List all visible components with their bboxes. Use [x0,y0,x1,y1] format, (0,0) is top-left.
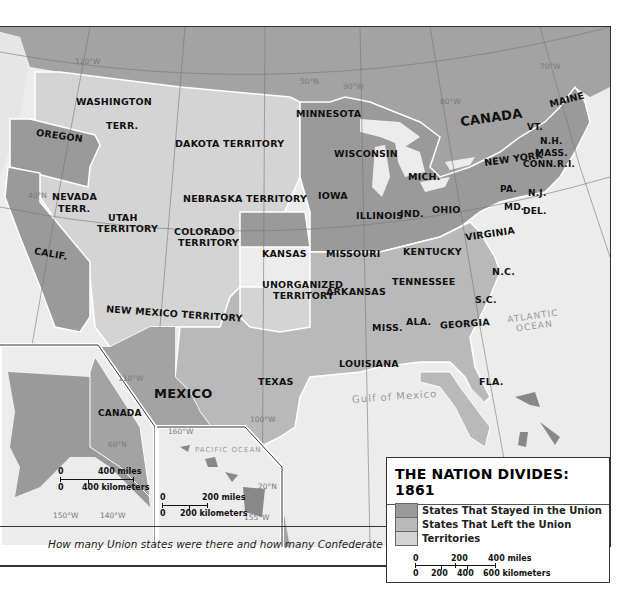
label-mexico: MEXICO [154,387,212,401]
label-utah-territory: TERRITORY [97,224,158,234]
legend-item-territories: Territories [395,531,480,545]
label-ri: R.I. [557,160,575,169]
label-colorado-territory: TERRITORY [178,238,239,248]
hawaii-scale-bar: 0 200 miles 0 200 kilometers [160,493,240,523]
grid-90w: 90°W [343,82,364,91]
label-sc: S.C. [475,295,497,305]
grid-140w: 140°W [100,511,125,520]
alaska-scale-0-miles: 0 [58,467,64,476]
question-text: How many Union states were there and how… [48,538,424,550]
label-pacific-ocean: PACIFIC OCEAN [195,447,261,455]
label-minnesota: MINNESOTA [296,109,361,119]
label-ala: ALA. [406,317,431,327]
hawaii-scale-km: 200 kilometers [180,509,248,518]
legend-scale-km-600: 600 kilometers [483,569,551,578]
bottom-rule [0,565,386,567]
label-pa: PA. [500,185,517,194]
label-illinois: ILLINOIS [356,211,403,221]
legend-item-union: States That Stayed in the Union [395,503,602,517]
legend-item-confederate: States That Left the Union [395,517,571,531]
label-nevada-terr: TERR. [58,204,90,214]
label-dakota: DAKOTA TERRITORY [175,139,284,149]
label-kentucky: KENTUCKY [403,247,462,257]
legend-scale-km-400: 400 [457,569,474,578]
hawaii-scale-0-miles: 0 [160,493,166,502]
legend-label-union: States That Stayed in the Union [422,505,602,516]
hawaii-scale-miles: 200 miles [202,493,246,502]
legend-scale-miles-0: 0 [413,554,419,563]
grid-150w: 150°W [53,511,78,520]
label-nc: N.C. [492,267,515,277]
grid-120w: 120°W [75,57,100,66]
grid-100w: 100°W [250,415,275,424]
grid-80w: 80°W [440,97,461,106]
label-unorganized-territory: TERRITORY [273,291,334,301]
label-iowa: IOWA [318,191,348,201]
legend-scale-bar: 0 200 400 miles 0 200 400 600 kilometers [415,554,555,580]
label-ohio: OHIO [432,205,460,215]
swatch-union [395,503,418,518]
label-mass: MASS. [535,149,568,158]
legend-scale-miles-400: 400 miles [488,554,532,563]
label-nj: N.J. [528,189,547,198]
alaska-scale-0-km: 0 [58,483,64,492]
label-missouri: MISSOURI [326,249,381,259]
label-utah: UTAH [108,213,138,223]
label-vt: VT. [527,123,543,132]
grid-110w: 110°W [118,374,143,383]
label-texas: TEXAS [258,377,294,387]
label-nevada: NEVADA [52,192,97,202]
label-tennessee: TENNESSEE [392,277,455,287]
swatch-confederate [395,517,418,532]
grid-20n: 20°N [258,482,277,491]
grid-50n: 50°N [300,77,319,86]
label-del: DEL. [523,207,547,216]
label-nebraska: NEBRASKA TERRITORY [183,194,307,204]
legend-title: THE NATION DIVIDES: 1861 [387,458,609,505]
label-kansas: KANSAS [262,249,307,259]
label-conn: CONN. [523,160,557,169]
alaska-scale-km: 400 kilometers [82,483,150,492]
label-washington-terr: TERR. [106,121,138,131]
alaska-scale-miles: 400 miles [98,467,142,476]
question-divider [0,526,386,527]
grid-40n: 40°N [28,191,47,200]
legend-scale-km-0: 0 [413,569,419,578]
label-fla: FLA. [479,377,503,387]
label-louisiana: LOUISIANA [339,359,399,369]
map-legend: THE NATION DIVIDES: 1861 States That Sta… [386,457,610,583]
legend-scale-miles-200: 200 [451,554,468,563]
legend-label-territories: Territories [422,533,480,544]
hawaii-scale-0-km: 0 [160,509,166,518]
label-washington: WASHINGTON [76,97,152,107]
legend-scale-km-200: 200 [431,569,448,578]
label-arkansas: ARKANSAS [326,287,386,297]
grid-70w: 70°W [540,62,561,71]
grid-60n: 60°N [108,440,127,449]
legend-label-confederate: States That Left the Union [422,519,571,530]
label-colorado: COLORADO [174,227,235,237]
grid-160w: 160°W [168,427,193,436]
label-ind: IND. [400,209,424,219]
label-mich: MICH. [408,172,441,182]
label-nh: N.H. [540,137,563,146]
label-wisconsin: WISCONSIN [334,149,398,159]
swatch-territories [395,531,418,546]
alaska-scale-bar: 0 400 miles 0 400 kilometers [58,467,138,497]
label-canada-inset: CANADA [98,409,142,418]
label-miss: MISS. [372,323,403,333]
label-md: MD. [504,203,524,212]
